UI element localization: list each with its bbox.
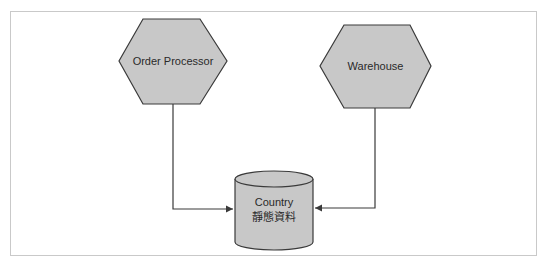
edge-order-processor-to-country xyxy=(173,104,233,209)
diagram-canvas xyxy=(0,0,545,266)
order-processor-label: Order Processor xyxy=(119,54,227,68)
country-static-data-label: 靜態資料 xyxy=(235,210,313,224)
edge-warehouse-to-country xyxy=(315,108,375,208)
country-label: Country xyxy=(235,195,313,209)
warehouse-label: Warehouse xyxy=(320,59,431,73)
